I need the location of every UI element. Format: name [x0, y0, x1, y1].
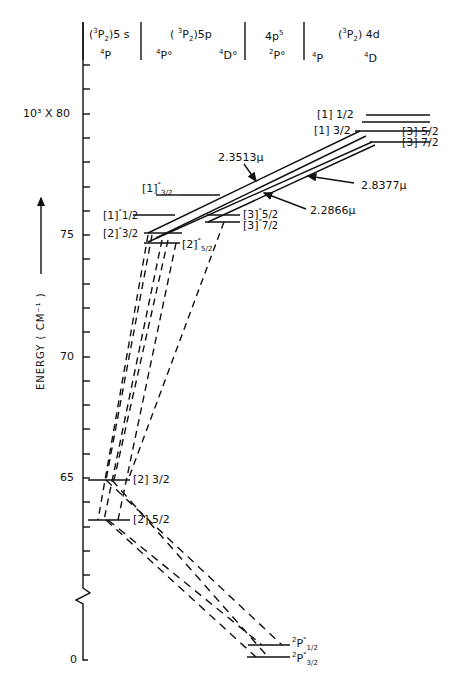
leader-2-8377 [308, 176, 354, 183]
level-label-5p-1-32: [1]°3/2 [142, 182, 172, 197]
degree: ° [198, 237, 202, 245]
degree: ° [303, 636, 307, 644]
term: D [368, 52, 376, 65]
term: P° [160, 49, 172, 62]
header-5p-term-4d: 4D° [219, 49, 237, 61]
degree: ° [158, 181, 162, 189]
level-label-4d-1-12: [1] 1/2 [317, 109, 354, 120]
level-label-4d-3-72: [3] 7/2 [402, 137, 439, 148]
p: P [182, 28, 189, 41]
sup: 5 [279, 29, 283, 37]
bracket: [1] [142, 182, 158, 195]
header-4d-term-4d: 4D [364, 52, 377, 64]
tail: )5 s [109, 28, 130, 41]
j: 1/2 [307, 644, 318, 652]
header-4d-term-4p: 4P [312, 52, 323, 64]
header-5s-config: (3P2)5 s [89, 28, 129, 43]
wavelength-2-2866: 2.2866μ [310, 205, 356, 216]
level-label-5p-3-72: [3]°7/2 [243, 219, 278, 231]
y-axis-ticks [83, 65, 90, 575]
header-5p-config: ( 3P2)5p [170, 28, 212, 43]
j: 3/2 [122, 228, 138, 239]
tail: ) 4d [358, 28, 380, 41]
level-label-5p-2-52: [2]°5/2 [182, 238, 212, 253]
header-5s-term: 4P [100, 49, 111, 61]
header-5p-term-4p: 4P° [156, 49, 173, 61]
level-label-ground-12: 2P°1/2 [292, 637, 318, 652]
j: 1/2 [122, 210, 138, 221]
leader-2-3513 [244, 164, 256, 181]
header-4d-config: (3P2) 4d [338, 28, 380, 43]
j: 7/2 [262, 220, 278, 231]
paren: ( [170, 28, 178, 41]
header-4p5-config: 4p5 [265, 30, 283, 42]
tick-label-65: 65 [60, 472, 74, 483]
tail: )5p [193, 28, 211, 41]
bracket: [2] [103, 227, 119, 240]
level-label-5s-2-52: [2] 5/2 [133, 514, 170, 525]
wavelength-2-8377: 2.8377μ [361, 180, 407, 191]
bracket: [2] [182, 238, 198, 251]
j: 3/2 [307, 659, 318, 667]
tick-label-80: 10³ X 80 [23, 108, 70, 119]
term: P° [273, 49, 285, 62]
y-axis [76, 22, 90, 660]
leader-2-2866 [264, 193, 306, 209]
level-label-5s-2-32: [2] 3/2 [133, 474, 170, 485]
y-axis-label: ENERGY ( CM⁻¹ ) [35, 292, 46, 390]
j: 5/2 [201, 245, 212, 253]
term: P [104, 49, 111, 62]
bracket: [3] [243, 219, 259, 232]
tick-label-75: 75 [60, 229, 74, 240]
wavelength-2-3513: 2.3513μ [218, 152, 264, 163]
j: 5/2 [262, 209, 278, 220]
header-4p5-term: 2P° [269, 49, 286, 61]
term: D° [223, 49, 237, 62]
level-label-5p-2-32: [2]°3/2 [103, 227, 138, 239]
level-label-4d-1-32: [1] 3/2 [314, 125, 351, 136]
bracket: [1] [103, 209, 119, 222]
level-label-5p-1-12: [1]°1/2 [103, 209, 138, 221]
degree: ° [303, 651, 307, 659]
energy-level-diagram [0, 0, 474, 690]
j: 3/2 [161, 189, 172, 197]
term: P [316, 52, 323, 65]
base: 4p [265, 30, 279, 43]
tick-label-70: 70 [60, 351, 74, 362]
level-label-ground-32: 2P°3/2 [292, 652, 318, 667]
dashed-transitions-5s-ground [106, 480, 282, 657]
tick-label-0: 0 [70, 654, 77, 665]
